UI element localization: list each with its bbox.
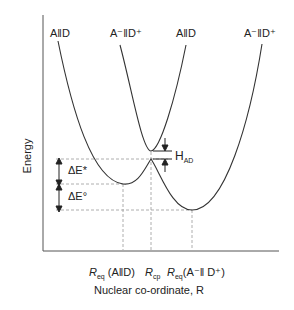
req-product-symbol: R	[167, 266, 175, 278]
rcp-symbol: R	[145, 266, 153, 278]
energy-diagram	[0, 0, 294, 310]
curve-label-right-product: A⁻‖D⁺	[244, 27, 276, 40]
req-product-label: Req(A⁻‖ D⁺)	[167, 266, 225, 280]
delta-e-star-arrow	[56, 158, 62, 186]
curve-label-left-reactant: A‖D	[50, 27, 70, 39]
coupling-label: HAD	[175, 149, 193, 164]
x-axis-label: Nuclear co-ordinate, R	[94, 284, 204, 296]
curve-label-left-product: A⁻‖D⁺	[110, 27, 142, 40]
y-axis-label: Energy	[21, 131, 33, 181]
upper-surface-curve	[120, 45, 186, 151]
coupling-subscript: AD	[184, 157, 194, 164]
req-reactant-symbol: R	[89, 266, 97, 278]
rcp-label: Rcp	[145, 266, 160, 280]
req-reactant-label: Req (A‖D)	[89, 266, 135, 280]
curve-label-right-reactant: A‖D	[176, 27, 196, 39]
req-reactant-arg: (A‖D)	[105, 266, 135, 278]
rcp-subscript: cp	[153, 273, 160, 280]
req-product-arg: (A⁻‖ D⁺)	[183, 266, 225, 278]
delta-e-zero-arrow	[56, 184, 62, 212]
reaction-energy-label: ΔE°	[68, 190, 87, 202]
activation-energy-label: ΔE*	[68, 164, 87, 176]
req-product-subscript: eq	[175, 273, 183, 280]
coupling-symbol: H	[175, 149, 184, 163]
lower-surface-curve	[58, 41, 262, 210]
req-reactant-subscript: eq	[97, 273, 105, 280]
